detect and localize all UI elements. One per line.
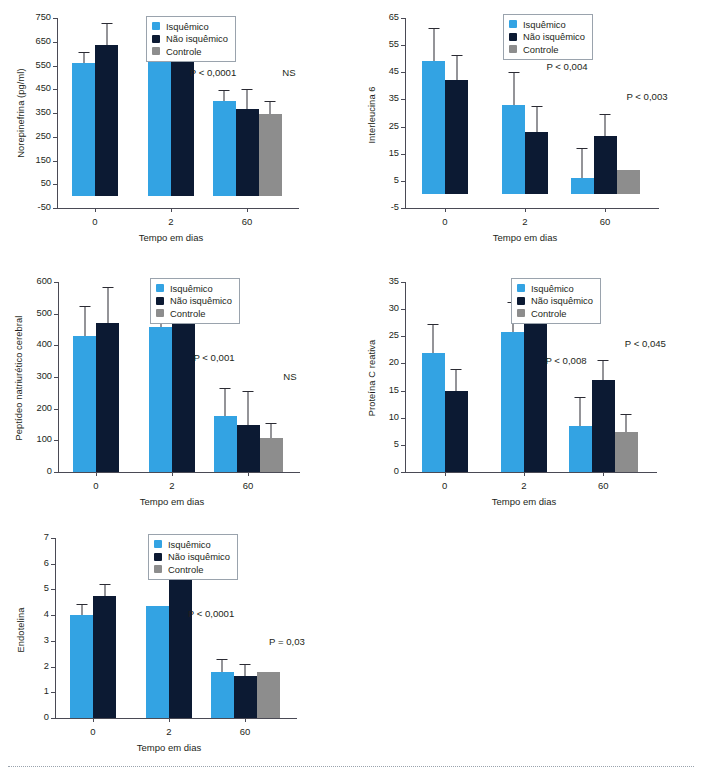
x-tick-label: 0	[92, 216, 97, 227]
y-tick-label: 750	[25, 13, 51, 22]
y-tick-mark	[54, 282, 58, 283]
y-tick-label: 0	[26, 467, 52, 476]
x-tick-label: 0	[93, 480, 98, 491]
legend-item-ctl: Controle	[154, 563, 230, 576]
error-bar	[214, 388, 237, 416]
bar-isqu-mico-0	[72, 63, 95, 196]
x-axis-line	[55, 718, 297, 719]
y-tick-mark	[401, 45, 405, 46]
legend-swatch-icon	[509, 20, 517, 28]
y-tick-mark	[51, 667, 55, 668]
y-tick-label: 45	[379, 68, 399, 77]
x-tick-mark	[524, 472, 525, 476]
x-tick-mark	[169, 718, 170, 722]
y-tick-mark	[401, 391, 405, 392]
x-tick-label: 60	[600, 216, 611, 227]
chart-interleucina-6: -55152535455565Interleucina 60260Tempo e…	[351, 0, 702, 258]
bar-n-o-isqu-mico-2	[172, 323, 195, 472]
legend-label: Não isquêmico	[531, 295, 593, 306]
bar-n-o-isqu-mico-2	[169, 568, 192, 718]
bar-isqu-mico-60	[214, 416, 237, 472]
error-bar	[236, 89, 259, 108]
plot-area-proteina: 05101520253035Proteína C reativa0260Temp…	[351, 258, 702, 520]
legend-item-isq: Isquêmico	[154, 538, 230, 551]
y-tick-label: 350	[25, 108, 51, 117]
x-tick-label: 2	[521, 480, 526, 491]
error-bar	[73, 306, 96, 335]
y-tick-mark	[53, 42, 57, 43]
y-tick-mark	[54, 345, 58, 346]
legend-label: Controle	[168, 564, 203, 575]
p-value-annotation: P < 0,001	[193, 352, 234, 363]
y-tick-mark	[54, 472, 58, 473]
legend-item-nao: Não isquêmico	[517, 295, 593, 308]
y-axis-line	[57, 18, 58, 208]
y-tick-label: 6	[31, 559, 49, 568]
y-tick-label: 2	[31, 662, 49, 671]
y-tick-mark	[51, 718, 55, 719]
p-value-annotation: P = 0,03	[269, 636, 305, 647]
p-value-annotation: P < 0,045	[625, 338, 666, 349]
bar-n-o-isqu-mico-60	[237, 425, 260, 472]
y-tick-label: 550	[25, 61, 51, 70]
bar-n-o-isqu-mico-0	[96, 323, 119, 472]
y-axis-title: Norepinefrina (pg/ml)	[16, 68, 26, 157]
bar-isqu-mico-2	[501, 332, 524, 472]
legend: IsquêmicoNão isquêmicoControle	[146, 16, 236, 62]
legend-label: Controle	[531, 308, 566, 319]
y-tick-label: 600	[26, 277, 52, 286]
legend-label: Isquêmico	[523, 19, 566, 30]
x-tick-mark	[445, 208, 446, 212]
y-tick-mark	[401, 127, 405, 128]
chart-proteina-c-reativa: 05101520253035Proteína C reativa0260Temp…	[351, 258, 702, 520]
y-tick-label: 0	[379, 467, 399, 476]
error-bar	[234, 664, 257, 676]
x-tick-mark	[171, 208, 172, 212]
plot-area-norepinefrina: -5050150250350450550650750Norepinefrina …	[0, 0, 351, 258]
x-axis-line	[405, 208, 659, 209]
y-tick-mark	[51, 692, 55, 693]
y-axis-line	[55, 538, 56, 718]
legend-swatch-icon	[154, 553, 162, 561]
bar-isqu-mico-0	[70, 615, 93, 718]
y-tick-mark	[53, 208, 57, 209]
x-tick-label: 60	[243, 480, 254, 491]
legend-label: Controle	[170, 308, 205, 319]
y-tick-label: 300	[26, 372, 52, 381]
y-tick-mark	[54, 440, 58, 441]
x-axis-title: Tempo em dias	[137, 742, 201, 753]
plot-area-interleucina: -55152535455565Interleucina 60260Tempo e…	[351, 0, 702, 258]
legend-label: Controle	[166, 46, 201, 57]
error-bar	[445, 369, 468, 390]
chart-norepinefrina: -5050150250350450550650750Norepinefrina …	[0, 0, 351, 258]
bar-isqu-mico-0	[73, 336, 96, 472]
legend-label: Controle	[523, 44, 558, 55]
bar-isqu-mico-2	[502, 105, 525, 195]
x-tick-mark	[95, 208, 96, 212]
legend-item-nao: Não isquêmico	[156, 295, 232, 308]
y-tick-mark	[401, 181, 405, 182]
x-axis-title: Tempo em dias	[492, 496, 556, 507]
bar-isqu-mico-60	[569, 426, 592, 472]
y-tick-label: 35	[379, 95, 399, 104]
legend-label: Isquêmico	[166, 21, 209, 32]
p-value-annotation: P < 0,0001	[190, 67, 237, 78]
x-axis-line	[57, 208, 299, 209]
bar-isqu-mico-0	[422, 61, 445, 194]
legend-item-isq: Isquêmico	[156, 282, 232, 295]
legend-item-nao: Não isquêmico	[509, 31, 585, 44]
y-tick-label: 5	[379, 440, 399, 449]
x-tick-mark	[605, 208, 606, 212]
y-tick-label: 500	[26, 309, 52, 318]
error-bar	[445, 55, 468, 81]
error-bar	[237, 391, 260, 426]
y-tick-mark	[51, 641, 55, 642]
legend-item-ctl: Controle	[509, 43, 585, 56]
error-bar	[502, 72, 525, 105]
legend-swatch-icon	[509, 45, 517, 53]
y-tick-label: 400	[26, 341, 52, 350]
y-tick-label: 5	[379, 176, 399, 185]
y-tick-label: 15	[379, 386, 399, 395]
y-tick-mark	[401, 363, 405, 364]
y-axis-line	[405, 282, 406, 472]
